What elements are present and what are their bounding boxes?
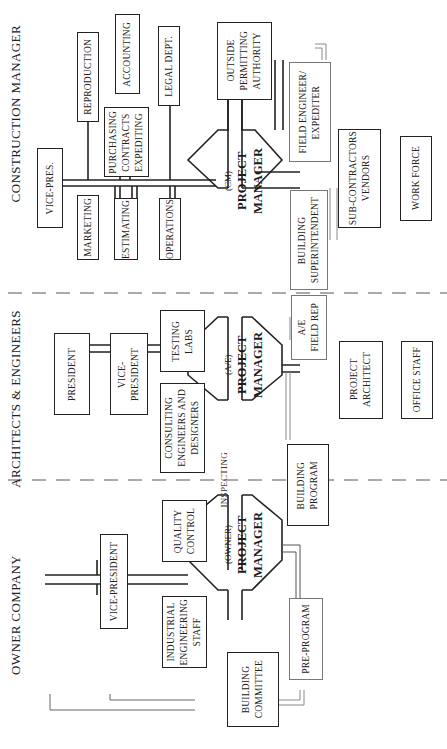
box-cm-work-force[interactable]: WORK FORCE bbox=[400, 136, 432, 221]
box-cm-operations[interactable]: OPERATIONS bbox=[159, 198, 181, 260]
box-ae-project-architect[interactable]: PROJECT ARCHITECT bbox=[339, 341, 383, 419]
cm-project-manager[interactable]: (CM) PROJECT MANAGER bbox=[222, 136, 270, 226]
box-ae-vice-president[interactable]: VICE- PRESIDENT bbox=[110, 333, 148, 415]
box-cm-legal[interactable]: LEGAL DEPT. bbox=[158, 26, 180, 106]
cm-backbone bbox=[60, 180, 216, 186]
box-ae-office-staff[interactable]: OFFICE STAFF bbox=[401, 341, 433, 419]
box-owner-pre-program[interactable]: PRE-PROGRAM bbox=[289, 598, 323, 680]
box-cm-reproduction[interactable]: REPRODUCTION bbox=[77, 32, 99, 122]
owner-project-manager[interactable]: (OWNER) PROJECT MANAGER bbox=[222, 500, 270, 590]
box-owner-industrial-engineering[interactable]: INDUSTRIAL ENGINEERING STAFF bbox=[162, 596, 207, 668]
section-title-construction: CONSTRUCTION MANAGER bbox=[8, 25, 24, 202]
box-owner-quality-control[interactable]: QUALITY CONTROL bbox=[162, 500, 207, 562]
box-cm-estimating[interactable]: ESTIMATING bbox=[114, 198, 138, 260]
box-cm-vice-pres[interactable]: VICE-PRES. bbox=[37, 148, 63, 228]
section-title-architects: ARCHITECTS & ENGINEERS bbox=[8, 310, 24, 488]
box-cm-subcontractors[interactable]: SUB-CONTRACTORS VENDORS bbox=[338, 129, 381, 228]
box-cm-outside-permitting[interactable]: OUTSIDE PERMITTING AUTHORITY bbox=[217, 22, 272, 100]
box-ae-president[interactable]: PRESIDENT bbox=[54, 333, 90, 415]
box-cm-accounting[interactable]: ACCOUNTING bbox=[115, 14, 140, 94]
box-cm-marketing[interactable]: MARKETING bbox=[77, 195, 99, 260]
box-owner-vice-president[interactable]: VICE-PRESIDENT bbox=[100, 534, 128, 629]
box-ae-field-rep[interactable]: A/E FIELD REP bbox=[291, 295, 327, 360]
box-ae-consulting[interactable]: CONSULTING ENGINEERS AND DESIGNERS bbox=[160, 383, 205, 473]
box-cm-purchasing[interactable]: PURCHASING CONTRACTS EXPEDITING bbox=[104, 107, 149, 177]
ae-project-manager[interactable]: (A/E) PROJECT MANAGER bbox=[222, 320, 270, 410]
box-owner-building-program[interactable]: BUILDING PROGRAM bbox=[287, 444, 329, 526]
box-owner-building-committee[interactable]: BUILDING COMMITTEE bbox=[227, 652, 279, 727]
box-cm-field-engineer[interactable]: FIELD ENGINEER/ EXPEDITER bbox=[289, 62, 331, 162]
box-ae-testing-labs[interactable]: TESTING LABS bbox=[160, 310, 205, 372]
section-title-owner: OWNER COMPANY bbox=[8, 555, 24, 675]
org-chart-diagram: OWNER COMPANY ARCHITECTS & ENGINEERS CON… bbox=[0, 0, 447, 749]
box-cm-building-superintendent[interactable]: BUILDING SUPERINTENDENT bbox=[290, 190, 328, 290]
